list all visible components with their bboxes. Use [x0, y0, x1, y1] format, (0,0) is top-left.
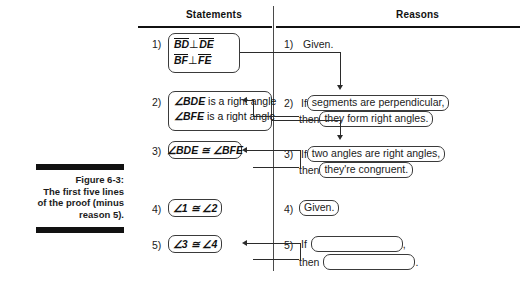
- reason-4-boxed-clause: Given.: [299, 200, 339, 216]
- reason-2-then-label: then: [299, 113, 319, 125]
- connector-r5-h1: [253, 259, 299, 260]
- proof-figure: Figure 6-3: The first five lines of the …: [0, 0, 526, 281]
- connector-r2-v: [253, 100, 254, 117]
- reason-2-if-line: If segments are perpendicular,: [301, 95, 449, 111]
- statement-number-5: 5): [152, 239, 161, 251]
- reason-3-if-label: If: [301, 148, 307, 160]
- connector-r3-arrowhead: [242, 147, 247, 153]
- connector-s1-v: [340, 52, 341, 85]
- connector-s1-h: [240, 52, 341, 53]
- caption-title: Figure 6-3:: [36, 174, 124, 186]
- connector-r5-h2: [247, 243, 301, 244]
- statement-box-2: ∠BDE is a right angle ∠BFE is a right an…: [168, 91, 272, 131]
- reason-3-if-clause: two angles are right angles,: [307, 146, 445, 162]
- figure-caption: Figure 6-3: The first five lines of the …: [36, 164, 124, 233]
- reason-3-then-label: then: [299, 164, 319, 176]
- connector-r2-h1: [253, 116, 299, 117]
- reason-5-then-label: then: [299, 256, 319, 268]
- reason-5-then-line: then .: [299, 254, 418, 270]
- segment-fe: FE: [198, 54, 211, 66]
- reason-number-4: 4): [284, 203, 293, 215]
- reason-2-then-line: then they form right angles.: [299, 111, 433, 127]
- reason-5-if-label: If: [301, 238, 307, 250]
- reason-number-1: 1): [284, 38, 293, 50]
- perp-symbol-2: ⊥: [188, 54, 198, 66]
- statement-box-1: BD⊥DE BF⊥FE: [168, 33, 240, 73]
- reason-3-then-line: then they're congruent.: [299, 162, 413, 178]
- caption-rule-bottom: [36, 227, 124, 233]
- reason-text-1: Given.: [303, 38, 333, 50]
- connector-s1-arrowhead: [337, 85, 343, 90]
- column-divider: [273, 6, 274, 271]
- angle-bde-1: ∠BDE: [174, 95, 205, 107]
- connector-r2-h2: [247, 100, 254, 101]
- connector-s2-v: [340, 120, 341, 136]
- statement-number-4: 4): [152, 203, 161, 215]
- statements-column-header: Statements: [186, 9, 242, 20]
- reason-2-then-clause: they form right angles.: [319, 111, 433, 127]
- caption-body: The first five lines of the proof (minus…: [36, 186, 124, 221]
- reason-3-then-clause: they're congruent.: [319, 162, 413, 178]
- reasons-header-rule: [276, 26, 520, 28]
- connector-s2-h: [272, 120, 341, 121]
- angle-bfe-1: ∠BFE: [174, 110, 204, 122]
- reason-5-then-blank[interactable]: [323, 254, 415, 270]
- reason-5-if-line: If ,: [301, 236, 406, 252]
- connector-r5-arrowhead: [242, 240, 247, 246]
- reason-5-if-trailing: ,: [403, 238, 406, 250]
- reason-3-if-line: If two angles are right angles,: [301, 146, 445, 162]
- segment-bf: BF: [174, 54, 188, 66]
- connector-s2-arrowhead: [337, 135, 343, 140]
- statement-number-1: 1): [152, 38, 161, 50]
- statement-number-3: 3): [152, 145, 161, 157]
- connector-r3-v: [300, 150, 301, 168]
- reason-number-2: 2): [284, 97, 293, 109]
- connector-r3-h1: [253, 167, 299, 168]
- reason-5-then-trailing: .: [415, 256, 418, 268]
- segment-de: DE: [199, 38, 214, 50]
- reason-2-if-label: If: [301, 97, 307, 109]
- reason-4-line: Given.: [299, 200, 339, 216]
- statement-box-5: ∠3 ≅ ∠4: [168, 235, 222, 253]
- reason-2-if-clause: segments are perpendicular,: [307, 95, 450, 111]
- statements-header-rule: [138, 26, 272, 28]
- segment-bd: BD: [174, 38, 189, 50]
- connector-r3-h2: [247, 150, 301, 151]
- reasons-column-header: Reasons: [396, 9, 439, 20]
- connector-r5-v: [300, 243, 301, 260]
- reason-number-5: 5): [284, 239, 293, 251]
- perp-symbol-1: ⊥: [189, 38, 199, 50]
- angle-bde-1-rest: is a right angle: [205, 95, 276, 107]
- statement-box-3: ∠BDE ≅ ∠BFE: [168, 141, 242, 159]
- statement-box-4: ∠1 ≅ ∠2: [168, 199, 222, 217]
- reason-5-if-blank[interactable]: [311, 236, 403, 252]
- statement-number-2: 2): [152, 96, 161, 108]
- caption-text: Figure 6-3: The first five lines of the …: [36, 170, 124, 223]
- statement-1-line-1: BD⊥DE: [174, 36, 234, 52]
- statement-1-line-2: BF⊥FE: [174, 52, 234, 68]
- connector-r2-arrowhead: [242, 97, 247, 103]
